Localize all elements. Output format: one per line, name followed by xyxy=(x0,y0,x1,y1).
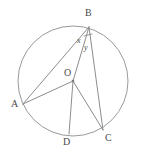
point-label-D: D xyxy=(63,137,70,147)
segment-OD xyxy=(69,81,73,134)
point-label-A: A xyxy=(11,99,18,109)
angle-label-y: y xyxy=(84,44,88,52)
angle-label-x: x xyxy=(77,37,81,45)
segment-OA xyxy=(23,81,73,104)
segment-OC xyxy=(73,81,103,130)
geometry-canvas xyxy=(0,0,144,160)
point-label-O: O xyxy=(64,68,71,78)
angle-tick-icon xyxy=(84,34,92,36)
point-label-C: C xyxy=(105,133,112,143)
segment-BC xyxy=(89,27,103,130)
geometry-figure: A B C D O x y xyxy=(0,0,144,160)
point-label-B: B xyxy=(85,8,92,18)
